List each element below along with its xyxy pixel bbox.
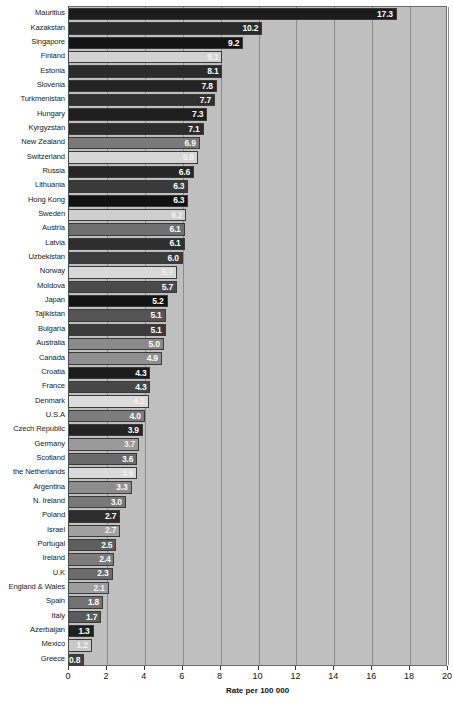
y-axis-label: Israel xyxy=(0,526,65,534)
bar-row: 3.3 xyxy=(69,480,446,494)
bar: 6.0 xyxy=(69,252,183,264)
x-axis-tick-labels: 02468101214161820 xyxy=(68,670,447,684)
bar-value-label: 3.0 xyxy=(111,498,125,507)
x-tick-label: 14 xyxy=(328,670,338,682)
bar-row: 6.2 xyxy=(69,208,446,222)
bar-value-label: 6.1 xyxy=(169,239,183,248)
bar-value-label: 4.2 xyxy=(133,397,147,406)
bar-value-label: 1.2 xyxy=(77,641,91,650)
bar: 8.1 xyxy=(69,65,222,77)
x-tick-label: 8 xyxy=(217,670,222,682)
y-axis-label: Latvia xyxy=(0,239,65,247)
y-axis-label: Sweden xyxy=(0,210,65,218)
bar: 3.0 xyxy=(69,496,126,508)
x-tick-label: 10 xyxy=(252,670,262,682)
bar-value-label: 6.9 xyxy=(185,139,199,148)
bar-value-label: 3.6 xyxy=(122,469,136,478)
y-axis-label: England & Wales xyxy=(0,583,65,591)
y-axis-label: Germany xyxy=(0,440,65,448)
bar-value-label: 7.1 xyxy=(188,125,202,134)
y-axis-label: Croatia xyxy=(0,368,65,376)
bar-value-label: 4.3 xyxy=(135,369,149,378)
plot-area: 17.310.29.28.18.17.87.77.37.16.96.86.66.… xyxy=(68,6,447,666)
bar-row: 2.3 xyxy=(69,567,446,581)
bar: 5.1 xyxy=(69,324,166,336)
bar-row: 7.8 xyxy=(69,79,446,93)
bar-value-label: 6.0 xyxy=(167,254,181,263)
bar: 8.1 xyxy=(69,51,222,63)
bar-value-label: 0.8 xyxy=(69,656,83,665)
bar-row: 8.1 xyxy=(69,64,446,78)
y-axis-label: Kazakstan xyxy=(0,24,65,32)
bar: 1.8 xyxy=(69,596,103,608)
y-axis-label: Tajikistan xyxy=(0,310,65,318)
bar-row: 17.3 xyxy=(69,7,446,21)
bar-row: 3.7 xyxy=(69,437,446,451)
bar: 2.4 xyxy=(69,553,114,565)
bar-row: 1.2 xyxy=(69,638,446,652)
bar: 6.8 xyxy=(69,151,198,163)
bar-row: 4.9 xyxy=(69,351,446,365)
bar: 17.3 xyxy=(69,8,397,20)
bar-row: 10.2 xyxy=(69,21,446,35)
bar-row: 3.6 xyxy=(69,466,446,480)
bar: 4.2 xyxy=(69,395,149,407)
y-axis-label: Australia xyxy=(0,339,65,347)
bar-value-label: 8.1 xyxy=(207,53,221,62)
bar: 5.0 xyxy=(69,338,164,350)
x-tick-label: 6 xyxy=(179,670,184,682)
bar-row: 7.7 xyxy=(69,93,446,107)
bar: 6.1 xyxy=(69,238,185,250)
bar-value-label: 6.3 xyxy=(173,182,187,191)
bar-value-label: 5.7 xyxy=(162,283,176,292)
x-tick-label: 18 xyxy=(404,670,414,682)
bar: 3.6 xyxy=(69,467,137,479)
bar: 3.9 xyxy=(69,424,143,436)
bar-row: 3.0 xyxy=(69,495,446,509)
bar-value-label: 4.9 xyxy=(147,354,161,363)
bar: 7.3 xyxy=(69,108,207,120)
y-axis-label: Estonia xyxy=(0,67,65,75)
bar-row: 9.2 xyxy=(69,36,446,50)
y-axis-label: Spain xyxy=(0,597,65,605)
bar-row: 4.0 xyxy=(69,409,446,423)
bar-value-label: 2.5 xyxy=(101,541,115,550)
bar: 6.3 xyxy=(69,195,188,207)
x-tick-label: 0 xyxy=(65,670,70,682)
y-axis-label: Finland xyxy=(0,52,65,60)
bar: 1.3 xyxy=(69,625,94,637)
bar-chart: MauritiusKazakstanSingaporeFinlandEstoni… xyxy=(0,0,453,703)
bar-row: 7.1 xyxy=(69,122,446,136)
bar-value-label: 7.3 xyxy=(192,110,206,119)
bar-value-label: 8.1 xyxy=(207,67,221,76)
bar-value-label: 2.1 xyxy=(94,584,108,593)
bar: 3.7 xyxy=(69,438,139,450)
y-axis-label: France xyxy=(0,382,65,390)
bar-value-label: 6.8 xyxy=(183,153,197,162)
bar: 5.7 xyxy=(69,281,177,293)
bar-value-label: 4.0 xyxy=(130,412,144,421)
bar-value-label: 9.2 xyxy=(228,39,242,48)
bar-value-label: 3.9 xyxy=(128,426,142,435)
y-axis-label: Greece xyxy=(0,655,65,663)
bar-value-label: 6.3 xyxy=(173,196,187,205)
y-axis-label: N. Ireland xyxy=(0,497,65,505)
y-axis-label: Portugal xyxy=(0,540,65,548)
bar-rows: 17.310.29.28.18.17.87.77.37.16.96.86.66.… xyxy=(69,7,446,665)
bar-row: 6.1 xyxy=(69,237,446,251)
y-axis-label: Bulgaria xyxy=(0,325,65,333)
bar-row: 5.7 xyxy=(69,265,446,279)
bar: 3.6 xyxy=(69,453,137,465)
bar-row: 2.7 xyxy=(69,509,446,523)
bar-value-label: 3.6 xyxy=(122,455,136,464)
bar-row: 7.3 xyxy=(69,107,446,121)
bar: 7.7 xyxy=(69,94,215,106)
y-axis-label: Russia xyxy=(0,167,65,175)
bar-row: 5.7 xyxy=(69,280,446,294)
bar: 2.7 xyxy=(69,510,120,522)
bar-row: 6.1 xyxy=(69,222,446,236)
bar-value-label: 1.3 xyxy=(78,627,92,636)
bar: 2.1 xyxy=(69,582,109,594)
y-axis-label: Scotland xyxy=(0,454,65,462)
bar-row: 0.8 xyxy=(69,653,446,667)
